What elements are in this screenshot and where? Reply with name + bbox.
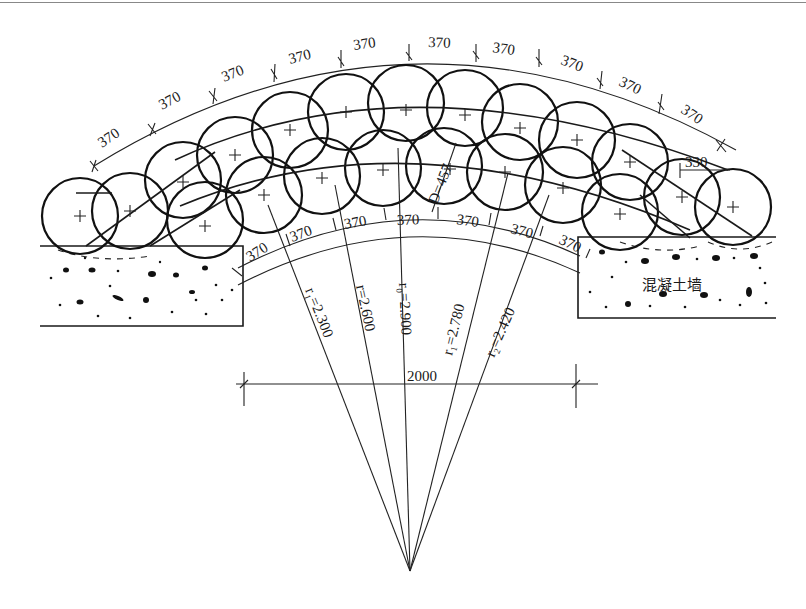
svg-text:r₁=2.300: r₁=2.300 [302,285,336,340]
svg-text:370: 370 [509,220,535,241]
svg-text:r₀=2.900: r₀=2.900 [396,282,415,335]
inner-spacing-label: 370 [288,222,315,245]
svg-text:370: 370 [492,39,517,58]
radius-label-r2: r₂=2.420 [482,305,518,359]
aggregate-texture-left [50,257,234,320]
radius-label-r0: r₀=2.900 [396,282,415,335]
svg-text:330: 330 [685,154,708,170]
svg-text:370: 370 [288,222,315,245]
outer-spacing-label: 370 [492,39,517,58]
inner-spacing-label: 370 [243,239,271,264]
svg-text:370: 370 [156,88,183,113]
svg-text:370: 370 [287,46,313,67]
pile-diameter-label: D=457 [425,161,456,206]
outer-spacing-label: 370 [95,125,123,151]
svg-text:r₁=2.780: r₁=2.780 [439,302,467,357]
radius-label-r: r=2.600 [353,283,378,333]
inner-spacing-label: 370 [557,231,584,255]
svg-text:370: 370 [243,239,271,264]
svg-text:2000: 2000 [407,368,437,384]
radius-label-r1-right: r₁=2.780 [439,302,467,357]
svg-text:370: 370 [95,125,123,151]
span-label: 2000 [407,368,437,384]
svg-text:370: 370 [456,211,481,230]
outer-spacing-label: 370 [428,34,451,51]
svg-text:r₂=2.420: r₂=2.420 [482,305,518,359]
pile-wall-diagram: 370 370 370 370 370 370 370 370 370 370 … [0,0,806,609]
outer-spacing-label: 370 [156,88,183,113]
outer-spacing-label: 370 [219,62,246,85]
svg-text:370: 370 [559,52,586,75]
inner-spacing-label: 370 [343,212,368,232]
svg-text:r=2.600: r=2.600 [353,283,378,333]
inner-spacing-label: 370 [397,211,420,228]
outer-spacing-label: 370 [352,34,377,53]
svg-text:混凝土墙: 混凝土墙 [642,276,702,294]
inner-spacing-label: 370 [509,220,535,241]
outer-spacing-label: 370 [287,46,313,67]
svg-text:370: 370 [397,211,420,228]
concrete-wall-label: 混凝土墙 [642,276,702,294]
svg-text:370: 370 [557,231,584,255]
svg-text:370: 370 [343,212,368,232]
end-offset-label: 330 [685,154,708,170]
outer-spacing-label: 370 [559,52,586,75]
svg-text:370: 370 [428,34,451,51]
inner-spacing-label: 370 [456,211,481,230]
svg-text:370: 370 [352,34,377,53]
radius-label-r1-left: r₁=2.300 [302,285,336,340]
svg-text:D=457: D=457 [425,161,456,206]
outer-spacing-label: 370 [617,73,644,97]
svg-text:370: 370 [617,73,644,97]
svg-text:370: 370 [219,62,246,85]
